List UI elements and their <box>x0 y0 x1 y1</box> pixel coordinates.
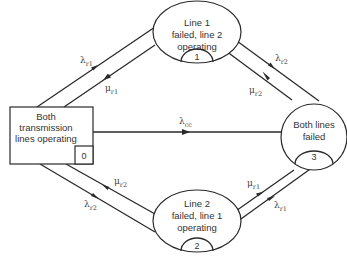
edge-0-to-2: λr2 <box>40 164 155 232</box>
rate-label-mu-r2-2-0: μr2 <box>114 176 127 189</box>
state-1-label-line-1: Line 1 <box>184 17 210 28</box>
state-0-number: 0 <box>81 151 86 161</box>
rate-label-mu-r1-1-0: μr1 <box>105 83 118 96</box>
state-1-label-line-3: operating <box>177 41 217 52</box>
state-1-number: 1 <box>194 52 199 62</box>
state-2-line2-failed: Line 2 failed, line 1 operating 2 <box>153 190 241 252</box>
state-3-label-line-2: failed <box>303 131 326 142</box>
state-transition-diagram: λr1 μr1 λr2 μr2 λcc μr2 λr2 <box>0 0 347 259</box>
edge-0-to-3: λcc <box>93 116 282 135</box>
state-0-both-lines-operating: Both transmission lines operating 0 <box>10 107 93 164</box>
state-2-label-line-1: Line 2 <box>184 198 210 209</box>
edge-1-to-0: μr1 <box>64 45 155 107</box>
state-0-label-line-3: lines operating <box>15 133 77 144</box>
state-0-label-line-2: transmission <box>19 122 72 133</box>
rate-label-lambda-r1-0-1: λr1 <box>80 55 93 68</box>
edge-0-to-1: λr1 <box>37 27 155 107</box>
state-1-line1-failed: Line 1 failed, line 2 operating 1 <box>153 1 241 63</box>
state-2-label-line-3: operating <box>177 222 217 233</box>
state-3-both-lines-failed: Both lines failed 3 <box>281 104 347 170</box>
state-3-number: 3 <box>311 152 316 162</box>
state-2-label-line-2: failed, line 1 <box>172 210 223 221</box>
rate-label-mu-r2-3-1: μr2 <box>249 85 262 98</box>
state-1-label-line-2: failed, line 2 <box>172 29 223 40</box>
state-3-label-line-1: Both lines <box>293 119 335 130</box>
rate-label-mu-r1-3-2: μr1 <box>247 178 260 191</box>
rate-label-lambda-r2-1-3: λr2 <box>275 53 288 66</box>
edge-2-to-0: μr2 <box>66 164 155 214</box>
rate-label-lambda-r2-0-2: λr2 <box>84 199 97 212</box>
state-0-label-line-1: Both <box>36 111 56 122</box>
edge-1-to-3: λr2 <box>226 33 319 101</box>
state-2-number: 2 <box>194 241 199 251</box>
rate-label-lambda-cc-0-3: λcc <box>179 116 192 129</box>
rate-label-lambda-r1-2-3: λr1 <box>274 200 287 213</box>
